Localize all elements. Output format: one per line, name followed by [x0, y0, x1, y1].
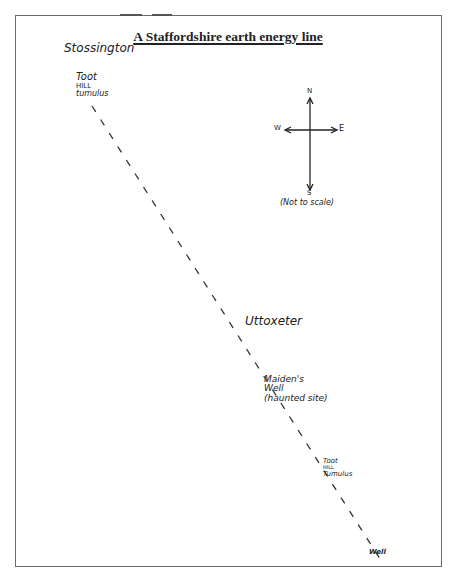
compass-east-label: E	[339, 125, 344, 133]
diagram-canvas	[0, 0, 457, 583]
energy-line	[92, 106, 382, 562]
compass-south-label: S	[307, 190, 311, 197]
compass-rose-icon	[285, 98, 337, 190]
compass-scale-note: (Not to scale)	[280, 199, 334, 207]
compass-west-label: W	[274, 125, 281, 132]
compass-north-label: N	[307, 88, 312, 95]
